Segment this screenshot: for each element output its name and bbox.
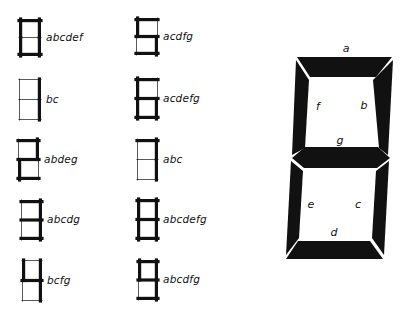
segment-label-g: g xyxy=(337,134,344,147)
segment-e xyxy=(286,161,303,255)
segment-label-e: e xyxy=(308,198,315,211)
segment-label-f: f xyxy=(316,100,322,113)
segment-label-b: b xyxy=(361,99,368,112)
segment-f xyxy=(292,60,309,155)
segment-d xyxy=(286,241,383,259)
large-seven-segment-diagram: abcdefg xyxy=(0,0,405,317)
segment-a xyxy=(297,57,392,77)
segment-label-a: a xyxy=(343,42,350,55)
segment-c xyxy=(372,161,389,255)
segment-g xyxy=(292,147,390,168)
segment-label-c: c xyxy=(355,198,361,211)
segment-label-d: d xyxy=(331,226,339,239)
